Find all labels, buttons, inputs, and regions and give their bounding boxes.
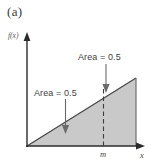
x-axis-arrowhead <box>136 142 145 149</box>
x-axis-label: x <box>140 150 144 160</box>
median-tick-label: m <box>100 149 106 159</box>
annotation-area-left: Area = 0.5 <box>34 88 77 98</box>
annotation-area-right: Area = 0.5 <box>78 52 121 62</box>
plot-graphics <box>0 0 155 167</box>
figure-panel: (a) f(x) Area = 0.5 Area = 0.5 m x <box>0 0 155 167</box>
y-axis-arrowhead <box>24 32 31 41</box>
